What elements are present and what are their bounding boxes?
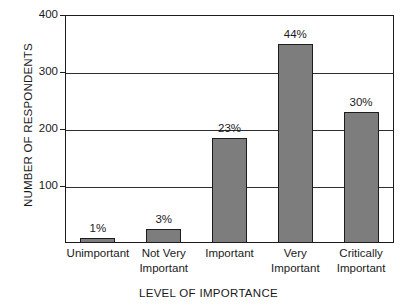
bar-slot: 44%: [278, 15, 313, 243]
bar-slot: 3%: [146, 15, 181, 243]
bar-value-label: 3%: [128, 213, 199, 225]
x-category-label: Unimportant: [65, 246, 131, 261]
y-tick-label-300: 300: [18, 65, 58, 77]
x-category-label: CriticallyImportant: [328, 246, 394, 275]
bar-value-label: 1%: [62, 222, 133, 234]
x-category-label-line: Critically: [328, 246, 394, 261]
y-tick-label-100: 100: [18, 179, 58, 191]
x-category-label-line: Important: [262, 261, 328, 276]
x-category-label-line: Not Very: [131, 246, 197, 261]
bar[interactable]: [344, 112, 379, 243]
bar-value-label: 30%: [326, 96, 397, 108]
bar-value-label: 44%: [260, 28, 331, 40]
bar[interactable]: [80, 238, 115, 243]
y-tick-label-400: 400: [18, 8, 58, 20]
x-axis-title: LEVEL OF IMPORTANCE: [0, 287, 417, 299]
x-category-label: VeryImportant: [262, 246, 328, 275]
x-category-label: Not VeryImportant: [131, 246, 197, 275]
bar[interactable]: [146, 229, 181, 243]
bar-chart: NUMBER OF RESPONDENTS 100200300400 1%3%2…: [0, 0, 417, 305]
x-category-label-line: Very: [262, 246, 328, 261]
x-category-label: Important: [197, 246, 263, 261]
bar-slot: 30%: [344, 15, 379, 243]
bar[interactable]: [212, 138, 247, 243]
y-tick-label-200: 200: [18, 122, 58, 134]
bar-slot: 1%: [80, 15, 115, 243]
x-category-label-line: Important: [197, 246, 263, 261]
bar-slot: 23%: [212, 15, 247, 243]
bar[interactable]: [278, 44, 313, 244]
bar-value-label: 23%: [194, 122, 265, 134]
x-category-label-line: Unimportant: [65, 246, 131, 261]
x-category-label-line: Important: [328, 261, 394, 276]
x-axis-category-labels: UnimportantNot VeryImportantImportantVer…: [65, 246, 394, 286]
bars-layer: 1%3%23%44%30%: [65, 15, 394, 243]
x-category-label-line: Important: [131, 261, 197, 276]
